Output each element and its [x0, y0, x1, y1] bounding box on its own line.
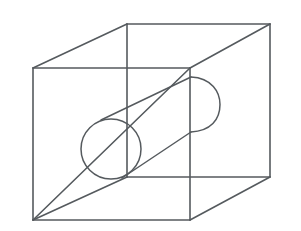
cylinder-near-cap-circle	[81, 119, 141, 179]
cube-edge-connector-top-left	[33, 24, 127, 68]
cylinder-top-tangent-line	[101, 77, 191, 120]
cylinder-far-cap-arc	[191, 77, 220, 132]
cube-edge-connector-bottom-right	[190, 177, 270, 220]
cylinder-group	[81, 77, 220, 179]
cube-edge-connector-top-right	[190, 24, 270, 68]
cube-cylinder-wireframe-svg	[0, 0, 301, 231]
cube-group	[33, 24, 270, 220]
figure-canvas	[0, 0, 301, 231]
diagonal-group	[33, 68, 190, 220]
cube-edge-connector-bottom-left	[33, 177, 127, 220]
face-diagonal-line	[33, 68, 190, 220]
